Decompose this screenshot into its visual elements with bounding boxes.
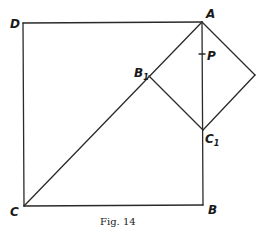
segment-EC1 [203,75,255,130]
segment-BC [24,205,203,206]
segment-AB [202,22,203,205]
segment-DA [23,22,202,23]
segment-CD [23,23,24,206]
label-B1: B1 [134,66,149,82]
label-P: P [207,49,216,63]
segment-C1B1 [149,76,203,130]
label-C: C [10,205,19,219]
label-A: A [205,7,215,21]
label-D: D [10,17,20,31]
label-B: B [208,203,217,217]
diagonal-CA [24,22,202,206]
geometry-figure: A P D B1 C1 B C Fig. 14 [0,0,264,237]
figure-caption: Fig. 14 [100,216,136,227]
label-C1: C1 [205,132,219,148]
